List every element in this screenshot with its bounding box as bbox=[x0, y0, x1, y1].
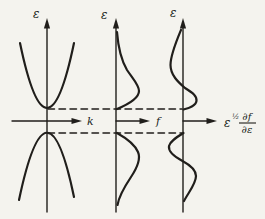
panel-distribution: ε f bbox=[101, 8, 162, 212]
exponent-half-label: ½ bbox=[232, 112, 239, 121]
k-axis-arrowhead-icon bbox=[72, 118, 83, 124]
energy-axis-arrowhead-icon bbox=[44, 18, 50, 29]
f-axis-label: f bbox=[155, 115, 162, 128]
physics-figure: ε k ε f ε bbox=[0, 0, 265, 219]
energy-axis-label: ε bbox=[33, 7, 39, 21]
energy-axis-label: ε bbox=[170, 6, 176, 20]
energy-axis-arrowhead-icon bbox=[113, 18, 119, 29]
k-axis-label: k bbox=[87, 115, 94, 128]
energy-axis-label: ε bbox=[101, 8, 107, 22]
energy-axis-arrowhead-icon bbox=[180, 18, 186, 29]
derivative-axis-arrowhead-icon bbox=[207, 118, 218, 124]
fraction-denominator-label: ∂ε bbox=[242, 124, 253, 135]
derivative-axis-label: ε ½ ∂f ∂ε bbox=[224, 111, 256, 135]
hole-distribution-curve bbox=[117, 133, 139, 205]
epsilon-base-label: ε bbox=[224, 116, 230, 130]
figure-canvas: ε k ε f ε bbox=[0, 0, 265, 219]
fraction-numerator-label: ∂f bbox=[243, 111, 254, 122]
electron-distribution-curve bbox=[117, 32, 139, 109]
f-axis-arrowhead-icon bbox=[140, 118, 151, 124]
